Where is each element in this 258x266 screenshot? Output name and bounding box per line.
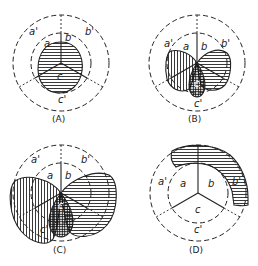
label-c-prime: c'	[194, 224, 202, 235]
shaded-region-abc	[38, 42, 82, 93]
outer-divider-bc	[87, 78, 103, 87]
label-b-prime: b'	[81, 154, 90, 165]
caption-b: (B)	[188, 114, 201, 124]
caption-a: (A)	[52, 114, 65, 124]
outer-divider-ac	[19, 78, 35, 87]
label-a-prime: a'	[158, 176, 167, 187]
label-b: b	[201, 41, 207, 52]
panel-c: a' a b b' c c'	[10, 145, 116, 243]
label-b-prime: b'	[221, 38, 230, 49]
label-c-prime: c'	[194, 98, 202, 109]
label-c: c	[57, 71, 63, 82]
label-c-prime: c'	[40, 224, 48, 235]
label-b: b	[208, 178, 214, 189]
label-b-prime: b'	[85, 26, 94, 37]
figure-canvas: a' a b b' c c' (A) a' a b b' c c' (B)	[0, 0, 258, 266]
label-a-prime: a'	[31, 154, 40, 165]
panel-a: a' a b b' c c'	[13, 15, 109, 111]
label-b: b	[65, 32, 71, 43]
label-c: c	[194, 78, 200, 89]
divider-bc	[198, 193, 224, 208]
caption-d: (D)	[189, 245, 203, 255]
label-a-prime: a'	[29, 26, 38, 37]
outer-divider-ac	[156, 208, 172, 217]
label-a-prime: a'	[164, 38, 173, 49]
label-c: c	[195, 204, 201, 215]
outer-divider-bc	[224, 208, 240, 217]
label-a: a	[47, 170, 53, 181]
label-a: a	[44, 38, 50, 49]
label-a: a	[183, 41, 189, 52]
label-b: b	[65, 170, 71, 181]
label-b-prime: b'	[232, 176, 241, 187]
caption-c: (C)	[53, 245, 66, 255]
label-c: c	[58, 200, 64, 211]
panel-d: a' a b b' c c'	[150, 145, 248, 241]
label-a: a	[180, 178, 186, 189]
label-c-prime: c'	[58, 94, 66, 105]
panel-b: a' a b b' c c'	[149, 15, 245, 111]
